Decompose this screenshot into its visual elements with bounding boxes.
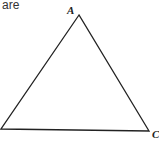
triangle-diagram: A C (0, 0, 159, 148)
vertex-label-a: A (66, 4, 74, 16)
triangle (1, 15, 149, 131)
vertex-label-c: C (152, 128, 159, 140)
